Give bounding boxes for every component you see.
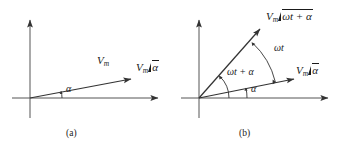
panel-b-right-angle-symbol: α bbox=[308, 65, 319, 76]
panel-a-phasor-vm bbox=[30, 79, 131, 98]
panel-b-top-v: V bbox=[266, 10, 273, 22]
panel-b-top-phasor-label: Vmωt + α bbox=[266, 11, 313, 24]
panel-b-alpha-label: α bbox=[251, 84, 256, 94]
panel-b-right-phasor-label: Vmα bbox=[296, 65, 319, 78]
panel-b-right-angle: α bbox=[312, 63, 319, 76]
panel-a-caption: (a) bbox=[66, 128, 77, 138]
panel-a-angle-symbol: α bbox=[148, 62, 159, 73]
panel-b-omega-t-arc bbox=[253, 43, 276, 82]
panel-a-alpha-label: α bbox=[66, 84, 71, 94]
panel-b-right-v: V bbox=[296, 64, 303, 76]
panel-b-top-angle: ωt + α bbox=[282, 9, 313, 22]
panel-b-omega-t-alpha-label: ωt + α bbox=[227, 67, 254, 77]
panel-b-caption: (b) bbox=[239, 128, 250, 138]
panel-b-top-angle-symbol: ωt + α bbox=[278, 11, 313, 22]
panel-a-phasor-shaft-label: Vm bbox=[97, 55, 109, 68]
panel-b-omega-t-arc-arrowhead-2 bbox=[273, 79, 277, 84]
panel-a-tip-angle: α bbox=[152, 60, 159, 73]
phasor-diagram-figure: Vm Vmα α (a) Vmωt + α Vmα ωt ωt + α α (b… bbox=[0, 0, 341, 156]
panel-a-shaft-v: V bbox=[97, 54, 104, 66]
panel-a-phasor-tip-label: Vmα bbox=[136, 62, 159, 75]
panel-a-tip-v: V bbox=[136, 61, 143, 73]
panel-b-omega-t-alpha-arc bbox=[220, 76, 229, 98]
panel-b-omega-t-label: ωt bbox=[274, 43, 284, 53]
panel-a-shaft-sub: m bbox=[104, 59, 109, 68]
